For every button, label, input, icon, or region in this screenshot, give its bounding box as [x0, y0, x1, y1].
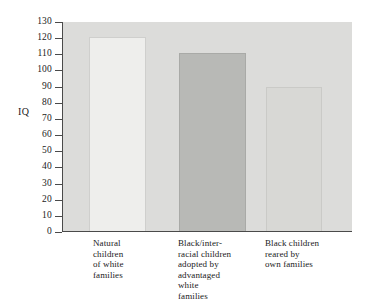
y-axis-tick-0 [55, 232, 62, 233]
y-axis-tick-120 [55, 38, 62, 39]
y-axis-tick-label-30: 30 [26, 179, 52, 189]
y-axis-tick-label-20: 20 [26, 195, 52, 205]
y-axis-tick-50 [55, 151, 62, 152]
y-axis-tick-label-40: 40 [26, 162, 52, 172]
y-axis-tick-label-110: 110 [26, 49, 52, 59]
y-axis-tick-label-120: 120 [26, 33, 52, 43]
y-axis-tick-30 [55, 184, 62, 185]
category-label-1: Black/inter- racial children adopted by … [178, 238, 258, 300]
y-axis-tick-80 [55, 103, 62, 104]
bar-natural-white-children [89, 37, 146, 231]
bar-black-children-own-families [266, 87, 322, 231]
y-axis-tick-130 [55, 22, 62, 23]
y-axis-tick-90 [55, 87, 62, 88]
y-axis-tick-label-70: 70 [26, 114, 52, 124]
bar-chart-figure: IQ 0102030405060708090100110120130 Natur… [0, 0, 370, 300]
y-axis-tick-10 [55, 216, 62, 217]
y-axis-tick-100 [55, 70, 62, 71]
y-axis-tick-label-50: 50 [26, 146, 52, 156]
y-axis-tick-110 [55, 54, 62, 55]
plot-area [62, 22, 352, 232]
y-axis-tick-label-80: 80 [26, 98, 52, 108]
y-axis-tick-label-10: 10 [26, 211, 52, 221]
y-axis-tick-label-100: 100 [26, 65, 52, 75]
y-axis-tick-70 [55, 119, 62, 120]
y-axis-tick-40 [55, 167, 62, 168]
y-axis-tick-label-90: 90 [26, 82, 52, 92]
y-axis-tick-20 [55, 200, 62, 201]
category-label-2: Black children reared by own families [265, 238, 360, 270]
bar-adopted-interracial-children [179, 53, 246, 231]
y-axis-tick-label-60: 60 [26, 130, 52, 140]
y-axis-tick-60 [55, 135, 62, 136]
category-label-0: Natural children of white families [93, 238, 168, 280]
y-axis-tick-label-130: 130 [26, 17, 52, 27]
y-axis-tick-label-0: 0 [26, 227, 52, 237]
